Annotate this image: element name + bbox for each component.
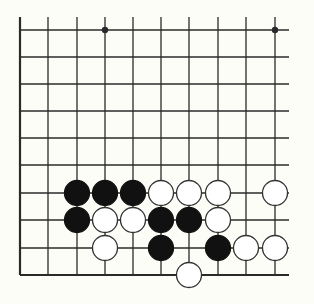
black-stone [65, 208, 90, 233]
white-stone [263, 236, 288, 261]
white-stone [234, 236, 259, 261]
white-stone [93, 236, 118, 261]
white-stone [177, 181, 202, 206]
star-point [272, 27, 278, 33]
go-board [0, 0, 314, 304]
black-stone [149, 208, 174, 233]
white-stone [263, 181, 288, 206]
star-point [102, 27, 108, 33]
black-stone [121, 181, 146, 206]
white-stone [93, 208, 118, 233]
white-stone [206, 181, 231, 206]
stones-layer [65, 181, 288, 288]
white-stone [121, 208, 146, 233]
black-stone [65, 181, 90, 206]
black-stone [206, 236, 231, 261]
black-stone [93, 181, 118, 206]
black-stone [177, 208, 202, 233]
white-stone [177, 263, 202, 288]
white-stone [206, 208, 231, 233]
black-stone [149, 236, 174, 261]
white-stone [149, 181, 174, 206]
